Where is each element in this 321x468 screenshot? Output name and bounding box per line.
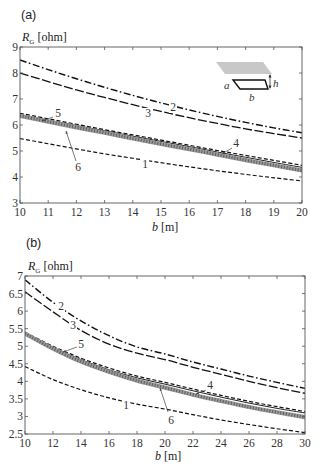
curve-1 [25, 367, 305, 433]
y-tick-label: 2.5 [9, 428, 24, 440]
inset-gray-plane [216, 62, 272, 74]
y-tick-label: 6.5 [9, 288, 24, 300]
x-axis-title: b [m] [152, 220, 178, 234]
curve-label-6: 6 [168, 414, 174, 426]
curve-label-3: 3 [145, 107, 151, 119]
x-tick-label: 28 [271, 437, 283, 449]
curve-label-1: 1 [142, 158, 148, 170]
x-tick-label: 16 [103, 437, 115, 449]
y-tick-label: 4 [17, 375, 23, 387]
curve-label-2: 2 [58, 300, 64, 312]
curve-3 [25, 292, 305, 393]
y-tick-label: 9 [12, 41, 18, 53]
curve-3 [20, 73, 302, 138]
y-axis-title: RG [ohm] [21, 30, 67, 46]
y-tick-label: 7 [17, 270, 23, 282]
y-tick-label: 3 [12, 197, 18, 209]
x-tick-label: 12 [71, 206, 83, 218]
x-tick-label: 14 [75, 437, 87, 449]
curve-label-2: 2 [170, 101, 176, 113]
x-axis-title: b [m] [155, 449, 181, 463]
leader-line-6 [66, 131, 76, 161]
curve-label-5: 5 [78, 338, 84, 350]
x-tick-label: 11 [43, 206, 54, 218]
x-tick-label: 12 [47, 437, 59, 449]
curves [20, 60, 302, 181]
x-tick-label: 19 [268, 206, 280, 218]
figure-canvas: (a)RG [ohm]b [m]101112131415161718192034… [0, 0, 321, 468]
inset-label-a: a [224, 79, 230, 91]
curve-label-4: 4 [207, 379, 213, 391]
inset-label-b: b [249, 91, 255, 103]
panel-b: (b)RG [ohm]b [m]10121416182022242628302.… [9, 236, 311, 463]
y-tick-label: 7 [12, 93, 18, 105]
panel-label: (b) [26, 236, 41, 250]
x-tick-label: 18 [240, 206, 252, 218]
x-tick-label: 26 [243, 437, 255, 449]
y-tick-label: 6 [17, 305, 23, 317]
inset-arrowhead-bottom [269, 86, 272, 90]
figure: (a)RG [ohm]b [m]101112131415161718192034… [0, 0, 321, 468]
geometry-inset: a b h [216, 62, 279, 103]
curve-2 [25, 280, 305, 389]
x-tick-label: 24 [215, 437, 227, 449]
inset-arrowhead-top [269, 74, 272, 78]
curve-label-3: 3 [70, 319, 76, 331]
leader-arrowhead-6 [66, 131, 68, 134]
x-tick-label: 20 [159, 437, 171, 449]
y-tick-label: 4.5 [9, 358, 24, 370]
x-tick-label: 15 [155, 206, 167, 218]
curve-label-5: 5 [55, 107, 61, 119]
inset-electrode-outline [233, 80, 268, 89]
panel-a: (a)RG [ohm]b [m]101112131415161718192034… [12, 8, 308, 234]
y-tick-label: 5.5 [9, 323, 24, 335]
panel-label: (a) [21, 8, 36, 22]
y-tick-label: 4 [12, 171, 18, 183]
x-tick-label: 20 [296, 206, 308, 218]
x-tick-label: 18 [131, 437, 143, 449]
curves [25, 280, 305, 433]
x-tick-label: 13 [99, 206, 111, 218]
y-tick-label: 3 [17, 410, 23, 422]
x-axis-unit: [m] [158, 220, 178, 234]
y-tick-label: 5 [17, 340, 23, 352]
x-tick-label: 16 [183, 206, 195, 218]
curve-label-6: 6 [75, 161, 81, 173]
inset-label-h: h [273, 77, 279, 89]
leader-arrowhead-5 [63, 350, 66, 352]
x-tick-label: 14 [127, 206, 139, 218]
y-axis-unit: [ohm] [40, 259, 72, 273]
curve-4 [20, 113, 302, 165]
x-tick-label: 17 [212, 206, 224, 218]
curve-5 [25, 333, 305, 413]
y-axis-title: RG [ohm] [27, 259, 73, 275]
curve-label-4: 4 [233, 137, 239, 149]
curve-label-1: 1 [123, 399, 129, 411]
y-tick-label: 6 [12, 119, 18, 131]
x-tick-label: 30 [299, 437, 311, 449]
y-tick-label: 8 [12, 67, 18, 79]
x-axis-unit: [m] [161, 449, 181, 463]
curve-4 [25, 332, 305, 411]
y-tick-label: 5 [12, 145, 18, 157]
y-axis-unit: [ohm] [34, 30, 66, 44]
x-tick-label: 22 [187, 437, 199, 449]
y-tick-label: 3.5 [9, 393, 24, 405]
